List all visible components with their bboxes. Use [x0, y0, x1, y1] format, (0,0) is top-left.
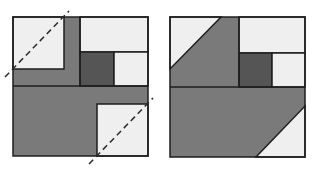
right-right-light-square — [272, 53, 305, 87]
left-right-light-square — [114, 52, 148, 86]
left-block — [5, 11, 153, 164]
left-top-right-light-rect — [80, 17, 148, 52]
right-top-right-light-rect — [239, 17, 305, 53]
right-block — [170, 17, 305, 157]
quilt-diagram — [0, 0, 314, 174]
left-center-dark-square — [80, 52, 114, 86]
right-center-dark-square — [239, 53, 272, 87]
